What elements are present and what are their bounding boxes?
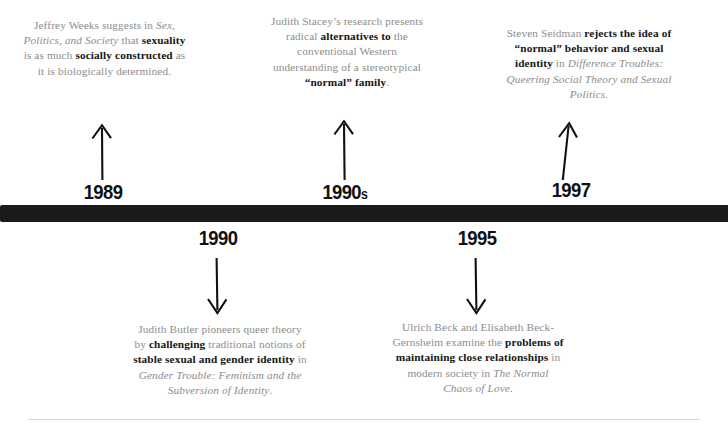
year-value: 1995: [458, 226, 497, 249]
text-run-regular: Steven Seidman: [507, 27, 585, 39]
year-value: 1990: [199, 226, 238, 249]
event-note-1997: Steven Seidman rejects the idea of “norm…: [498, 26, 680, 102]
event-note-1995: Ulrich Beck and Elisabeth Beck-Gernsheim…: [392, 320, 564, 396]
text-run-regular: traditional notions of: [205, 338, 305, 350]
text-run-regular: Jeffrey Weeks suggests in: [34, 19, 156, 31]
timeline-bar: [0, 205, 728, 222]
text-run-bold: sexuality: [142, 34, 186, 46]
year-label-1995: 1995: [439, 226, 515, 250]
year-value: 1997: [552, 178, 591, 201]
arrow-up-icon: [80, 120, 124, 186]
text-run-regular: in: [553, 57, 568, 69]
event-note-1990s: Judith Stacey’s research presents radica…: [268, 14, 426, 90]
text-run-bold: “normal” family: [305, 76, 387, 88]
text-run-regular: is as much: [24, 49, 76, 61]
year-label-1990s: 1990s: [305, 180, 384, 204]
year-label-1997: 1997: [533, 178, 609, 202]
text-run-regular: .: [269, 384, 272, 396]
text-run-regular: .: [605, 88, 608, 100]
year-suffix: s: [361, 186, 368, 202]
year-label-1989: 1989: [65, 180, 141, 204]
year-value: 1990: [322, 180, 361, 203]
text-run-regular: .: [386, 76, 389, 88]
timeline-infographic: Jeffrey Weeks suggests in Sex, Politics,…: [0, 0, 728, 427]
text-run-bold: socially constructed: [75, 49, 172, 61]
text-run-bold: stable sexual and gender identity: [133, 353, 295, 365]
bottom-divider: [28, 419, 700, 420]
text-run-regular: that: [118, 34, 141, 46]
year-label-1990: 1990: [180, 226, 256, 250]
arrow-down-icon: [195, 256, 239, 322]
text-run-bold: alternatives to: [320, 30, 390, 42]
event-note-1990: Judith Butler pioneers queer theory by c…: [132, 322, 308, 398]
text-run-regular: .: [510, 382, 513, 394]
year-value: 1989: [84, 180, 123, 203]
text-run-bold: challenging: [149, 338, 205, 350]
arrow-down-icon: [454, 256, 498, 322]
event-note-1989: Jeffrey Weeks suggests in Sex, Politics,…: [22, 18, 187, 79]
arrow-up-icon: [322, 116, 366, 186]
text-run-regular: in: [295, 353, 307, 365]
text-run-italic: Gender Trouble: Feminism and the Subvers…: [139, 369, 302, 396]
arrow-up-icon: [544, 118, 588, 186]
